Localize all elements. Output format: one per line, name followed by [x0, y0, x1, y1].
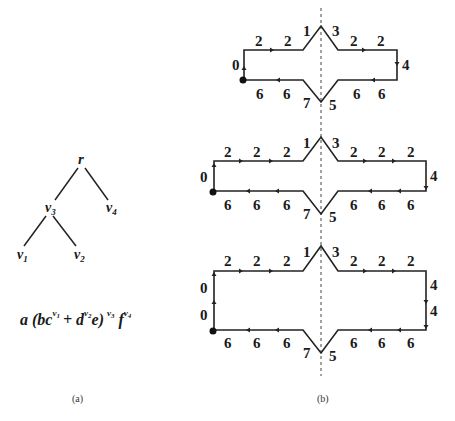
start-dot [210, 189, 217, 196]
panel-a-formula: a(bcv1+ dv2e)v3fv4 [20, 308, 132, 329]
label-6: 6 [283, 197, 291, 213]
label-1: 1 [303, 23, 311, 39]
label-6: 6 [224, 335, 232, 351]
arrow-right-icon [239, 269, 243, 274]
arrow-left-icon [397, 189, 401, 194]
label-5: 5 [329, 209, 337, 225]
arrow-up-icon [212, 163, 217, 167]
label-7: 7 [303, 345, 311, 361]
caption-b: (b) [317, 393, 329, 405]
label-7: 7 [303, 206, 311, 222]
arrow-down-icon [395, 62, 400, 66]
label-3: 3 [332, 135, 340, 151]
label-4: 4 [430, 277, 438, 293]
arrow-down-icon [424, 300, 429, 304]
arrow-down-icon [424, 186, 429, 190]
label-6: 6 [283, 86, 291, 102]
label-6: 6 [378, 86, 386, 102]
diagram-3: 0 0 2 2 2 1 3 2 2 2 4 4 6 6 6 5 7 6 6 6 [200, 244, 438, 364]
closed-path-3 [214, 246, 426, 353]
label-5: 5 [329, 348, 337, 364]
label-1: 1 [303, 244, 311, 260]
label-2: 2 [224, 253, 232, 269]
node-r: r [78, 151, 84, 167]
label-2: 2 [253, 144, 261, 160]
arrow-left-icon [275, 189, 279, 194]
label-1: 1 [303, 135, 311, 151]
label-0: 0 [200, 280, 208, 296]
label-6: 6 [378, 197, 386, 213]
arrow-up-icon [212, 300, 217, 304]
arrow-left-icon [246, 189, 250, 194]
label-6: 6 [283, 335, 291, 351]
arrow-right-icon [363, 159, 367, 164]
panel-a-tree: r v3 v4 v1 v2 [17, 151, 117, 264]
arrow-left-icon [371, 78, 375, 83]
arrow-left-icon [246, 328, 250, 333]
edge-r-v3 [55, 168, 78, 200]
label-2: 2 [407, 253, 415, 269]
formula: a(bcv1+ dv2e)v3fv4 [20, 308, 132, 329]
arrow-left-icon [276, 78, 280, 83]
label-6: 6 [407, 335, 415, 351]
node-v2: v2 [74, 247, 85, 264]
label-2: 2 [224, 144, 232, 160]
arrow-right-icon [363, 269, 367, 274]
label-2: 2 [377, 33, 385, 49]
arrow-right-icon [269, 159, 273, 164]
edge-r-v4 [85, 168, 108, 200]
arrow-right-icon [239, 159, 243, 164]
label-6: 6 [378, 335, 386, 351]
edge-v3-v2 [53, 216, 76, 246]
label-6: 6 [253, 335, 261, 351]
label-3: 3 [332, 23, 340, 39]
arrow-left-icon [275, 328, 279, 333]
label-7: 7 [303, 95, 311, 111]
node-v3: v3 [45, 200, 56, 217]
label-2: 2 [283, 144, 291, 160]
label-4: 4 [402, 57, 410, 73]
arrow-up-icon [212, 272, 217, 276]
label-0: 0 [200, 307, 208, 323]
label-3: 3 [332, 244, 340, 260]
label-6: 6 [407, 197, 415, 213]
edge-v3-v1 [24, 216, 46, 246]
label-2: 2 [284, 33, 292, 49]
label-2: 2 [350, 33, 358, 49]
closed-path-2 [214, 137, 426, 214]
node-v4: v4 [106, 200, 117, 217]
caption-a: (a) [72, 393, 83, 405]
label-6: 6 [353, 86, 361, 102]
label-6: 6 [350, 335, 358, 351]
label-2: 2 [350, 144, 358, 160]
arrow-right-icon [392, 159, 396, 164]
label-0: 0 [232, 57, 240, 73]
label-4: 4 [430, 303, 438, 319]
label-6: 6 [350, 197, 358, 213]
label-2: 2 [350, 253, 358, 269]
start-dot [210, 328, 217, 335]
label-5: 5 [329, 97, 337, 113]
arrow-down-icon [424, 325, 429, 329]
label-6: 6 [253, 197, 261, 213]
label-0: 0 [200, 169, 208, 185]
label-2: 2 [253, 253, 261, 269]
arrow-up-icon [242, 66, 247, 70]
label-2: 2 [283, 253, 291, 269]
arrow-left-icon [368, 328, 372, 333]
arrow-right-icon [269, 269, 273, 274]
label-6: 6 [224, 197, 232, 213]
arrow-right-icon [392, 269, 396, 274]
label-2: 2 [378, 253, 386, 269]
start-dot [240, 77, 247, 84]
label-2: 2 [378, 144, 386, 160]
arrow-left-icon [368, 189, 372, 194]
label-4: 4 [430, 168, 438, 184]
label-6: 6 [256, 86, 264, 102]
figure-canvas: r v3 v4 v1 v2 a(bcv1+ dv2e)v3fv4 (a) 0 2… [0, 0, 455, 421]
diagram-2: 0 2 2 2 1 3 2 2 2 4 6 6 6 5 7 6 6 6 [200, 135, 438, 225]
node-v1: v1 [17, 247, 28, 264]
label-2: 2 [255, 33, 263, 49]
label-2: 2 [407, 144, 415, 160]
arrow-right-icon [270, 48, 274, 53]
